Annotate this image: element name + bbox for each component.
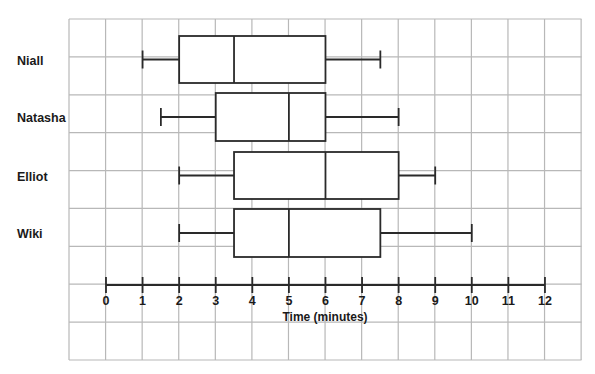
x-tick-label: 1	[139, 294, 146, 308]
box-elliot	[179, 152, 435, 199]
x-tick-label: 0	[103, 294, 110, 308]
iqr-box	[179, 36, 325, 83]
x-axis: 0123456789101112	[103, 277, 552, 308]
boxes	[143, 36, 472, 257]
iqr-box	[234, 209, 380, 257]
box-natasha	[161, 93, 399, 141]
row-label-wiki: Wiki	[17, 227, 43, 241]
row-labels: NiallNatashaElliotWiki	[17, 54, 67, 242]
x-tick-label: 11	[502, 294, 515, 308]
x-tick-label: 12	[538, 294, 552, 308]
row-label-niall: Niall	[17, 54, 43, 68]
x-tick-label: 9	[432, 294, 439, 308]
row-label-natasha: Natasha	[17, 111, 67, 125]
iqr-box	[234, 152, 399, 199]
x-tick-label: 6	[322, 294, 329, 308]
x-tick-label: 5	[285, 294, 292, 308]
iqr-box	[216, 93, 326, 141]
x-tick-label: 3	[212, 294, 219, 308]
x-tick-label: 8	[395, 294, 402, 308]
x-tick-label: 10	[465, 294, 479, 308]
x-tick-label: 4	[249, 294, 256, 308]
box-wiki	[179, 209, 472, 257]
x-axis-title: Time (minutes)	[282, 310, 367, 324]
row-label-elliot: Elliot	[17, 170, 48, 184]
box-plot-chart: 0123456789101112 NiallNatashaElliotWiki …	[0, 0, 595, 374]
x-tick-label: 2	[176, 294, 183, 308]
x-tick-label: 7	[359, 294, 366, 308]
